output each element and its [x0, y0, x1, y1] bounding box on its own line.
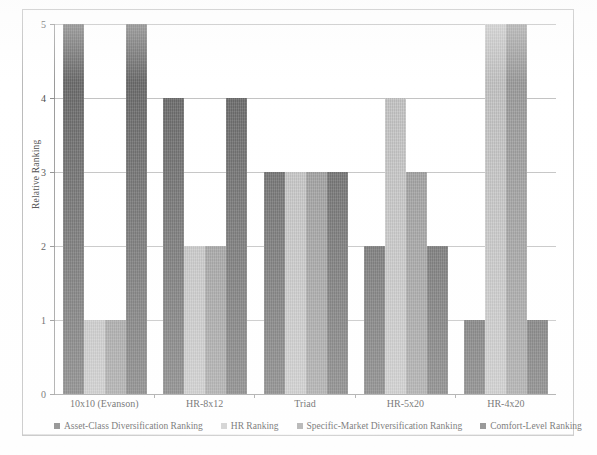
x-axis-category-label: HR-5x20 [355, 398, 455, 414]
legend-swatch-icon [480, 423, 486, 429]
y-axis-tick-label: 4 [41, 93, 46, 104]
y-axis-tick [50, 394, 55, 395]
bar [306, 172, 327, 394]
bar-group [356, 24, 456, 394]
legend-item[interactable]: Asset-Class Diversification Ranking [54, 421, 203, 431]
plot-wrapper: 012345 [54, 24, 556, 395]
bar [205, 246, 226, 394]
bar [506, 24, 527, 394]
bar [527, 320, 548, 394]
legend-swatch-icon [54, 423, 60, 429]
legend-item[interactable]: Specific-Market Diversification Ranking [297, 421, 463, 431]
x-axis-category-label: Triad [255, 398, 355, 414]
bar-chart-figure: Relative Ranking 012345 10x10 (Evanson)H… [0, 0, 597, 455]
bar [126, 24, 147, 394]
legend-swatch-icon [221, 423, 227, 429]
y-axis-tick-label: 3 [41, 167, 46, 178]
bar [427, 246, 448, 394]
bar [105, 320, 126, 394]
bar [485, 24, 506, 394]
bar [184, 246, 205, 394]
bar [285, 172, 306, 394]
legend-label: Comfort-Level Ranking [490, 421, 582, 431]
bar-group [155, 24, 255, 394]
y-axis-tick-label: 2 [41, 241, 46, 252]
legend-item[interactable]: HR Ranking [221, 421, 279, 431]
chart-legend: Asset-Class Diversification RankingHR Ra… [54, 419, 574, 433]
legend-item[interactable]: Comfort-Level Ranking [480, 421, 582, 431]
y-axis-tick-label: 0 [41, 389, 46, 400]
x-axis-category-label: HR-4x20 [456, 398, 556, 414]
y-axis-tick-label: 1 [41, 315, 46, 326]
x-axis-category-labels: 10x10 (Evanson)HR-8x12TriadHR-5x20HR-4x2… [54, 398, 556, 414]
bar [385, 98, 406, 394]
bar [364, 246, 385, 394]
bar [226, 98, 247, 394]
bar [84, 320, 105, 394]
bar [264, 172, 285, 394]
bar-groups [55, 24, 556, 394]
y-axis-title: Relative Ranking [31, 140, 41, 209]
legend-label: Asset-Class Diversification Ranking [64, 421, 203, 431]
bar-group [55, 24, 155, 394]
x-axis-category-label: HR-8x12 [154, 398, 254, 414]
legend-label: Specific-Market Diversification Ranking [307, 421, 463, 431]
legend-swatch-icon [297, 423, 303, 429]
legend-label: HR Ranking [231, 421, 279, 431]
plot-area: 012345 [54, 24, 556, 395]
bar-group [456, 24, 556, 394]
bar [163, 98, 184, 394]
bar-group [255, 24, 355, 394]
bar [63, 24, 84, 394]
bar [406, 172, 427, 394]
y-axis-tick-label: 5 [41, 19, 46, 30]
bar [464, 320, 485, 394]
x-axis-category-label: 10x10 (Evanson) [54, 398, 154, 414]
bar [327, 172, 348, 394]
